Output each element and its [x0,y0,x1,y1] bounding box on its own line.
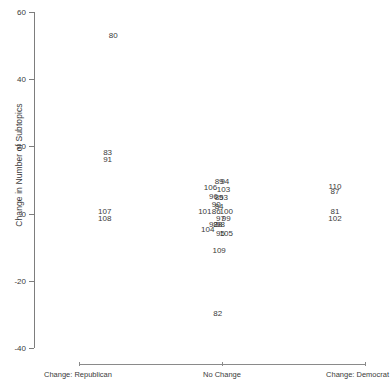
x-tick-label: Change: Democrat [299,370,389,379]
x-tick-mark [79,362,80,366]
data-point-label: 87 [331,188,340,196]
y-tick-mark [29,214,34,215]
data-point-label: 82 [213,310,222,318]
y-tick-mark [29,348,34,349]
data-point-label: 108 [98,215,111,223]
y-tick-label: 40 [0,75,26,84]
data-point-label: 109 [212,247,225,255]
data-point-label: 102 [328,215,341,223]
y-tick-mark [29,146,34,147]
x-tick-label: No Change [162,370,282,379]
y-tick-label: 20 [0,142,26,151]
data-point-label: 105 [220,230,233,238]
x-tick-mark [222,362,223,366]
data-point-label: 91 [103,156,112,164]
y-tick-label: -40 [0,344,26,353]
scatter-plot: Change in Number of Subtopics 6040200-20… [0,0,391,386]
data-point-label: 101 [198,208,211,216]
y-tick-label: 60 [0,8,26,17]
y-tick-label: 0 [0,210,26,219]
data-point-label: 80 [109,32,118,40]
x-tick-label: Change: Republican [44,370,112,379]
y-tick-mark [29,12,34,13]
x-tick-mark [365,362,366,366]
y-tick-mark [29,281,34,282]
y-tick-label: -20 [0,277,26,286]
data-point-label: 104 [201,226,214,234]
y-tick-mark [29,79,34,80]
y-axis-line [34,12,35,348]
